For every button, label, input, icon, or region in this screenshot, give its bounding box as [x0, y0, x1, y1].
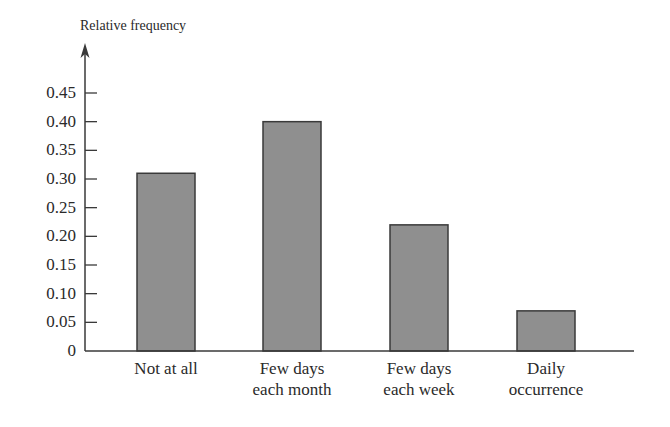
- x-category-label: Dailyoccurrence: [481, 358, 611, 400]
- x-category-label: Not at all: [101, 358, 231, 379]
- y-tick-label: 0.05: [46, 313, 76, 330]
- bar: [137, 173, 195, 351]
- y-tick-label: 0.35: [46, 141, 76, 158]
- y-tick-label: 0.30: [46, 170, 76, 187]
- bar: [263, 122, 321, 351]
- bar-chart: Relative frequency 00.050.100.150.200.25…: [0, 0, 670, 427]
- y-tick-label: 0.25: [46, 199, 76, 216]
- y-tick-label: 0.20: [46, 227, 76, 244]
- y-tick-label: 0.10: [46, 285, 76, 302]
- x-category-label: Few dayseach month: [227, 358, 357, 400]
- bar: [517, 311, 575, 351]
- y-tick-label: 0.15: [46, 256, 76, 273]
- y-tick-label: 0.40: [46, 113, 76, 130]
- y-axis-label: Relative frequency: [80, 18, 186, 34]
- y-tick-label: 0: [68, 342, 77, 359]
- y-tick-label: 0.45: [46, 84, 76, 101]
- x-category-label: Few dayseach week: [354, 358, 484, 400]
- bar: [390, 225, 448, 351]
